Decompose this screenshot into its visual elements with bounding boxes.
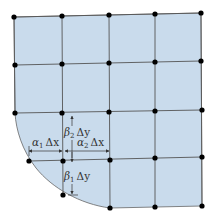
alpha1-dx-label: α1Δx [32,136,59,150]
beta1-dy-label: β1Δy [63,170,90,184]
fd-grid-diagram: β2Δy α1Δx α2Δx β1Δy [0,0,214,219]
alpha2-dx-label: α2Δx [77,136,104,150]
